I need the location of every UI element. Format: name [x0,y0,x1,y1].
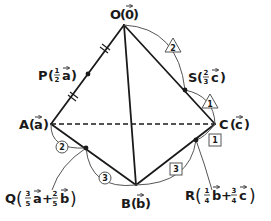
svg-text:2: 2 [59,143,65,152]
svg-text:b: b [212,188,221,203]
svg-text:a: a [62,68,71,83]
ratio-mark-RC: 1 [209,134,221,146]
svg-text:+: + [42,191,53,206]
svg-text:Q: Q [5,191,16,206]
label-C: C ( c ) [219,117,250,132]
svg-text:2: 2 [170,44,176,53]
edge-AB [51,124,136,185]
svg-text:): ) [249,186,256,206]
svg-text:3: 3 [204,78,209,86]
ratio-mark-AQ: 2 [56,141,68,153]
svg-text:1: 1 [212,136,218,145]
svg-text:5: 5 [26,200,31,208]
svg-text:2: 2 [53,190,58,198]
svg-text:2: 2 [55,76,60,84]
point-P [86,72,91,77]
ratio-arcs [51,25,215,190]
svg-text:(: ( [195,186,202,206]
svg-text:P: P [38,68,48,83]
point-R [194,138,199,143]
svg-text:c: c [239,188,247,203]
tetrahedron-diagram: 2 1 2 3 3 1 O ( 0 ) P ( 1 2 a [0,0,271,221]
point-S [183,88,188,93]
svg-text:3: 3 [232,187,237,195]
svg-text:a: a [33,191,42,206]
svg-text:a: a [34,117,43,132]
svg-text:1: 1 [207,100,213,109]
label-B: B ( b ) [121,195,151,211]
point-Q [84,146,89,151]
svg-text:): ) [71,68,77,83]
svg-text:4: 4 [232,197,237,205]
svg-text:(: ( [16,189,23,209]
label-Q: Q ( 3 5 a + 2 5 b ) [5,189,77,209]
svg-text:3: 3 [26,190,31,198]
leader-Q [52,148,86,190]
ratio-mark-SC: 1 [202,94,218,109]
ratio-mark-OS: 2 [165,38,181,53]
svg-text:b: b [60,191,69,206]
svg-text:): ) [145,196,151,211]
svg-text:+: + [221,188,232,203]
point-dots [84,72,199,151]
svg-text:1: 1 [55,67,60,75]
label-R: R ( 1 4 b + 3 4 c ) [185,186,256,206]
svg-text:): ) [43,117,49,132]
svg-text:): ) [133,7,139,22]
svg-text:R: R [185,188,195,203]
svg-text:(: ( [48,68,54,83]
svg-text:): ) [220,70,226,85]
label-O: O ( 0 ) [110,6,139,22]
svg-text:5: 5 [53,200,58,208]
svg-text:4: 4 [205,197,210,205]
svg-text:1: 1 [205,187,210,195]
svg-text:c: c [211,70,219,85]
edge-BC [136,124,215,185]
svg-text:c: c [235,117,243,132]
svg-text:): ) [244,117,250,132]
svg-text:2: 2 [204,69,209,77]
svg-text:3: 3 [102,174,108,183]
edge-OB [124,25,136,185]
svg-text:3: 3 [173,165,179,174]
label-S: S ( 2 3 c ) [188,69,226,86]
label-A: A ( a ) [19,117,49,132]
svg-text:b: b [136,196,145,211]
edges [51,25,215,185]
leader-R [196,140,212,190]
svg-text:): ) [70,189,77,209]
svg-text:B: B [121,196,131,211]
ratio-mark-QB: 3 [99,172,111,184]
ratio-mark-BR: 3 [170,163,182,175]
svg-text:C: C [219,117,229,132]
svg-text:A: A [19,117,29,132]
svg-text:(: ( [197,70,203,85]
label-P: P ( 1 2 a ) [38,67,77,84]
svg-text:S: S [188,70,197,85]
